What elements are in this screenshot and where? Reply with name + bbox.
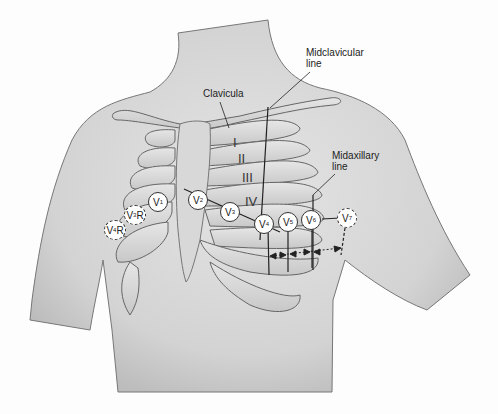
lead-v5: V5: [278, 212, 298, 232]
ecg-lead-placement-diagram: Clavicula Midclavicular line Midaxillary…: [0, 0, 498, 414]
lead-v6: V6: [301, 210, 321, 230]
intercostal-space-1: I: [233, 135, 237, 150]
lead-v3: V3: [220, 202, 240, 222]
lead-v2: V2: [188, 190, 208, 210]
lead-v4: V4: [254, 214, 274, 234]
intercostal-space-4: IV: [245, 194, 257, 209]
intercostal-space-2: II: [238, 151, 245, 166]
midaxillary-line-label: Midaxillary line: [332, 150, 392, 172]
midclavicular-line-label: Midclavicular line: [306, 47, 376, 69]
clavicula-label: Clavicula: [203, 88, 244, 99]
lead-v3r: V3R: [124, 205, 146, 225]
lead-v4r: V4R: [104, 220, 126, 240]
lead-v1: V1: [148, 192, 168, 212]
lead-v7: V7: [337, 208, 357, 228]
intercostal-space-3: III: [242, 170, 253, 185]
